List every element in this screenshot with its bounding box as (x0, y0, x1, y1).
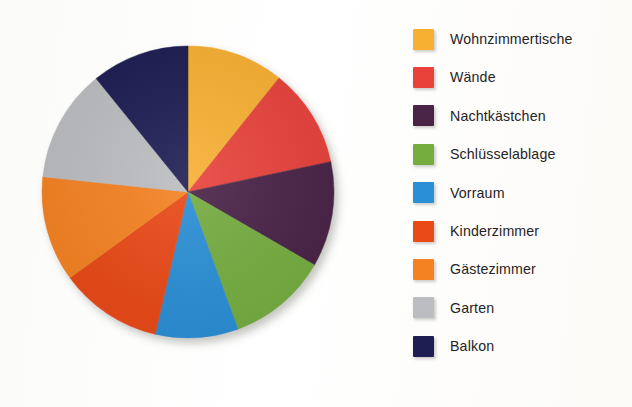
legend-color-swatch (413, 259, 434, 280)
legend-item[interactable]: Garten (413, 289, 628, 327)
legend-item[interactable]: Gästezimmer (413, 250, 628, 288)
legend-color-swatch (413, 144, 434, 165)
legend-color-swatch (413, 105, 434, 126)
pie-chart (30, 36, 350, 356)
legend-item-label: Garten (450, 301, 494, 315)
pie-slices-group (42, 46, 334, 338)
legend-item-label: Kinderzimmer (450, 224, 539, 238)
legend-item[interactable]: Wohnzimmertische (413, 20, 628, 58)
chart-legend: WohnzimmertischeWändeNachtkästchenSchlüs… (413, 20, 628, 388)
legend-item[interactable]: Nachtkästchen (413, 97, 628, 135)
legend-item[interactable]: Kinderzimmer (413, 212, 628, 250)
legend-item[interactable]: Vorraum (413, 174, 628, 212)
legend-item-label: Balkon (450, 339, 494, 353)
legend-color-swatch (413, 67, 434, 88)
legend-item-label: Nachtkästchen (450, 109, 546, 123)
legend-item[interactable]: Schlüsselablage (413, 135, 628, 173)
legend-color-swatch (413, 221, 434, 242)
legend-item-label: Wohnzimmertische (450, 32, 573, 46)
legend-item[interactable]: Balkon (413, 327, 628, 365)
legend-color-swatch (413, 336, 434, 357)
pie-chart-area (0, 0, 390, 407)
legend-color-swatch (413, 182, 434, 203)
legend-item-label: Wände (450, 70, 496, 84)
legend-item-label: Vorraum (450, 186, 505, 200)
legend-item-label: Schlüsselablage (450, 147, 555, 161)
legend-item-label: Gästezimmer (450, 262, 536, 276)
legend-color-swatch (413, 297, 434, 318)
legend-color-swatch (413, 29, 434, 50)
legend-item[interactable]: Wände (413, 58, 628, 96)
